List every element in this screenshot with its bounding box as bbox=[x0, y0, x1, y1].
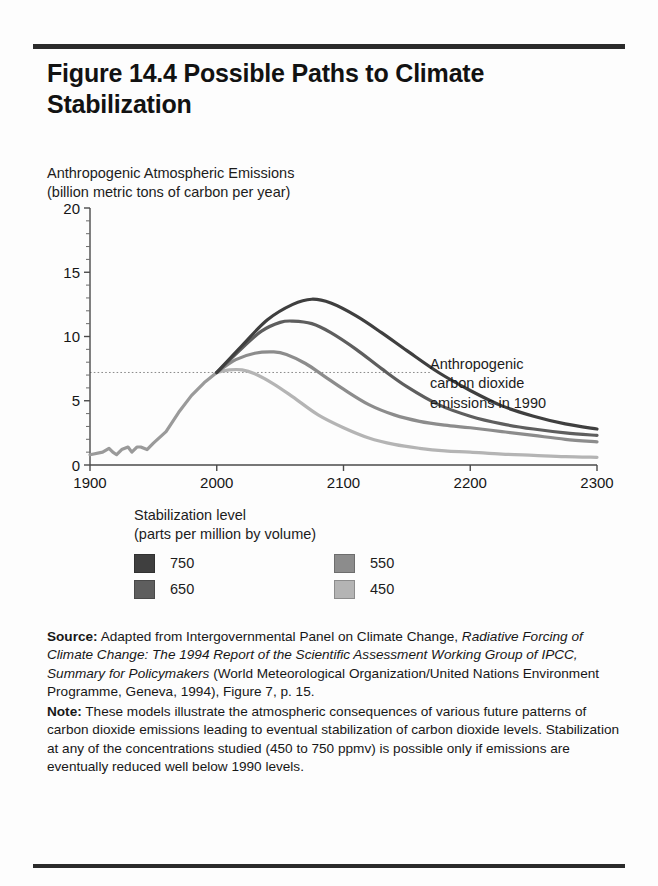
reference-line-annotation: Anthropogenic carbon dioxide emissions i… bbox=[430, 355, 645, 413]
annotation-line-2: carbon dioxide bbox=[430, 374, 645, 393]
legend-item-650: 650 bbox=[134, 580, 334, 599]
note-text: These models illustrate the atmospheric … bbox=[47, 704, 619, 774]
y-axis-caption-line1: Anthropogenic Atmospheric Emissions bbox=[47, 164, 477, 183]
x-tick-label-2000: 2000 bbox=[200, 474, 233, 491]
legend-item-550: 550 bbox=[334, 554, 534, 573]
annotation-line-1: Anthropogenic bbox=[430, 355, 645, 374]
legend-label-750: 750 bbox=[170, 555, 194, 571]
y-axis-caption-line2: (billion metric tons of carbon per year) bbox=[47, 183, 477, 202]
legend-title: Stabilization level (parts per million b… bbox=[134, 506, 554, 545]
legend-title-line1: Stabilization level bbox=[134, 506, 554, 525]
top-rule bbox=[33, 44, 625, 49]
legend-item-450: 450 bbox=[334, 580, 534, 599]
note-label: Note: bbox=[47, 704, 82, 719]
legend-swatch-550 bbox=[334, 554, 355, 573]
y-tick-label-5: 5 bbox=[72, 392, 80, 409]
x-tick-label-1900: 1900 bbox=[73, 474, 106, 491]
legend-swatch-650 bbox=[134, 580, 155, 599]
legend-swatch-450 bbox=[334, 580, 355, 599]
x-tick-label-2200: 2200 bbox=[454, 474, 487, 491]
explanatory-note: Note: These models illustrate the atmosp… bbox=[47, 703, 625, 777]
legend-items: 750550650450 bbox=[134, 554, 554, 599]
legend-label-550: 550 bbox=[370, 555, 394, 571]
figure-page: Figure 14.4 Possible Paths to Climate St… bbox=[0, 0, 658, 886]
bottom-rule bbox=[33, 864, 625, 868]
y-axis-caption: Anthropogenic Atmospheric Emissions (bil… bbox=[47, 164, 477, 202]
x-tick-label-2100: 2100 bbox=[327, 474, 360, 491]
annotation-line-3: emissions in 1990 bbox=[430, 394, 645, 413]
legend-title-line2: (parts per million by volume) bbox=[134, 525, 554, 544]
legend-label-650: 650 bbox=[170, 581, 194, 597]
y-tick-label-10: 10 bbox=[63, 328, 80, 345]
figure-notes: Source: Adapted from Intergovernmental P… bbox=[47, 628, 625, 778]
x-tick-label-2300: 2300 bbox=[580, 474, 613, 491]
source-note: Source: Adapted from Intergovernmental P… bbox=[47, 628, 625, 702]
series-historical bbox=[90, 372, 217, 454]
page-title: Figure 14.4 Possible Paths to Climate St… bbox=[47, 58, 617, 120]
source-text-1: Adapted from Intergovernmental Panel on … bbox=[98, 629, 462, 644]
legend-item-750: 750 bbox=[134, 554, 334, 573]
legend-swatch-750 bbox=[134, 554, 155, 573]
legend-label-450: 450 bbox=[370, 581, 394, 597]
chart-legend: Stabilization level (parts per million b… bbox=[134, 506, 554, 599]
y-tick-label-0: 0 bbox=[72, 457, 80, 474]
y-tick-label-15: 15 bbox=[63, 264, 80, 281]
source-label: Source: bbox=[47, 629, 98, 644]
